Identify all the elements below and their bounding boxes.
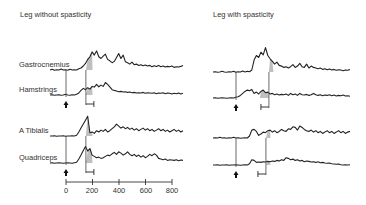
emg-figure — [0, 0, 366, 205]
onset-shade-quadriceps — [86, 149, 93, 164]
trace-normal-gastrocnemius — [50, 51, 183, 70]
stimulus-arrow-icon — [234, 171, 239, 178]
stimulus-arrow-icon — [64, 169, 69, 176]
trace-spastic-quadriceps — [213, 158, 350, 166]
trace-spastic-gastrocnemius — [213, 48, 350, 73]
trace-spastic-a-tibialis — [213, 126, 350, 138]
trace-normal-quadriceps — [50, 147, 183, 164]
stimulus-arrow-icon — [234, 104, 239, 111]
trace-normal-a-tibialis — [50, 116, 183, 136]
trace-normal-hamstrings — [50, 83, 183, 96]
stimulus-arrow-icon — [64, 101, 69, 108]
trace-spastic-hamstrings — [213, 89, 350, 98]
